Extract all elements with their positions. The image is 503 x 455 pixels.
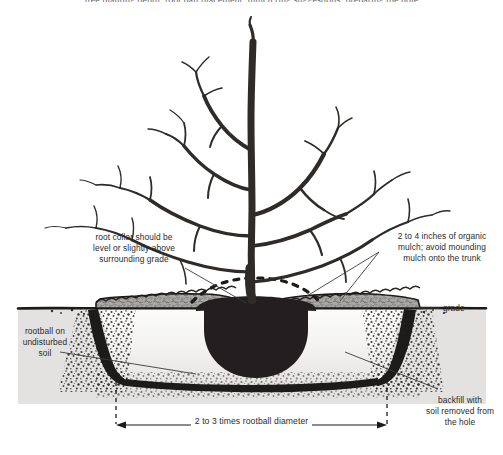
label-grade: grade	[443, 303, 465, 314]
label-mulch: 2 to 4 inches of organic mulch; avoid mo…	[382, 231, 502, 265]
tree-trunk	[251, 42, 253, 300]
diagram-canvas	[0, 0, 503, 455]
label-root-collar: root collar should be level or slightly …	[62, 232, 206, 266]
label-dimension: 2 to 3 times rootball diameter	[0, 416, 503, 427]
dimension-text: 2 to 3 times rootball diameter	[191, 416, 312, 426]
label-rootball: rootball on undisturbed soil	[6, 326, 84, 360]
tree-planting-diagram: tree planting depth; root ball placement…	[0, 0, 503, 455]
